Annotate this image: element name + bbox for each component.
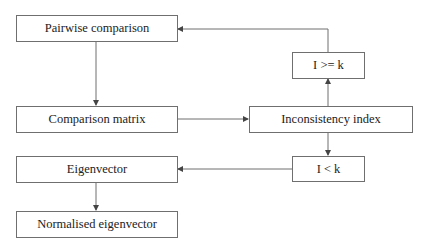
node-inconsistency-index: Inconsistency index (249, 106, 413, 133)
node-i-less-k: I < k (292, 156, 365, 182)
flowchart: Pairwise comparison Comparison matrix Ei… (0, 0, 425, 250)
node-comparison-matrix: Comparison matrix (16, 106, 178, 133)
node-pairwise-comparison: Pairwise comparison (16, 15, 178, 42)
node-normalised-eigenvector: Normalised eigenvector (16, 211, 178, 238)
node-eigenvector: Eigenvector (16, 156, 178, 183)
node-i-greater-equal-k: I >= k (292, 52, 365, 79)
arrow-ige-to-pairwise (178, 29, 328, 52)
